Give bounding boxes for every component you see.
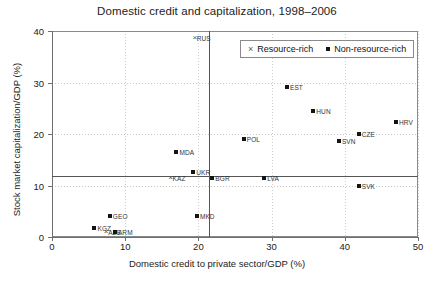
data-point: MDA — [174, 150, 178, 154]
y-tick-label: 40 — [22, 26, 44, 37]
legend-label-non-resource-rich: Non-resource-rich — [334, 44, 406, 54]
chart-title: Domestic credit and capitalization, 1998… — [0, 5, 434, 17]
chart-legend: × Resource-rich Non-resource-rich — [240, 40, 414, 58]
square-marker-icon — [191, 170, 195, 174]
data-point-label: MKD — [200, 213, 215, 220]
x-axis-label: Domestic credit to private sector/GDP (%… — [0, 258, 434, 269]
data-point-label: POL — [247, 136, 260, 143]
square-marker-icon — [394, 120, 398, 124]
data-point: UKR — [191, 170, 195, 174]
data-point: MKD — [195, 214, 199, 218]
square-marker-icon — [337, 139, 341, 143]
data-point: ×KAZ — [168, 175, 174, 181]
y-axis-line — [52, 31, 53, 237]
data-point-label: BGR — [215, 175, 229, 182]
y-tick-mark — [48, 186, 52, 187]
x-tick-label: 50 — [413, 241, 424, 252]
square-marker-icon — [326, 47, 330, 51]
square-marker-icon — [357, 132, 361, 136]
x-tick-label: 30 — [266, 241, 277, 252]
data-point-label: EST — [290, 83, 303, 90]
square-marker-icon — [195, 214, 199, 218]
y-tick-label: 0 — [22, 232, 44, 243]
data-point: ×RUS — [192, 35, 198, 41]
x-tick-label: 40 — [340, 241, 351, 252]
square-marker-icon — [242, 137, 246, 141]
y-tick-label: 30 — [22, 77, 44, 88]
y-tick-mark — [48, 134, 52, 135]
data-point-label: LVA — [267, 175, 279, 182]
x-tick-label: 0 — [49, 241, 54, 252]
square-marker-icon — [108, 214, 112, 218]
data-point-label: CZE — [362, 131, 375, 138]
y-tick-mark — [48, 31, 52, 32]
square-marker-icon — [357, 184, 361, 188]
x-axis-line — [52, 237, 418, 238]
data-point-label: RUS — [197, 35, 211, 42]
reference-line-vertical — [209, 31, 210, 237]
x-tick-label: 10 — [120, 241, 131, 252]
scatter-chart: Domestic credit and capitalization, 1998… — [0, 0, 434, 285]
y-axis-label: Stock market capitalization/GDP (%) — [11, 40, 22, 240]
data-point-label: KGZ — [97, 224, 111, 231]
data-point-label: ARM — [118, 228, 133, 235]
data-point: ARM — [113, 230, 117, 234]
data-point: CZE — [357, 132, 361, 136]
square-marker-icon — [262, 176, 266, 180]
data-point-label: HUN — [316, 107, 330, 114]
legend-label-resource-rich: Resource-rich — [257, 44, 313, 54]
data-point-label: KAZ — [173, 175, 186, 182]
y-tick-label: 10 — [22, 180, 44, 191]
data-point: HRV — [394, 120, 398, 124]
square-marker-icon — [311, 109, 315, 113]
square-marker-icon — [285, 85, 289, 89]
data-point: HUN — [311, 109, 315, 113]
data-point: KGZ — [92, 226, 96, 230]
data-point-label: HRV — [399, 118, 413, 125]
y-tick-label: 20 — [22, 129, 44, 140]
data-point: GEO — [108, 214, 112, 218]
data-point: EST — [285, 85, 289, 89]
data-point-label: MDA — [179, 149, 194, 156]
square-marker-icon — [210, 176, 214, 180]
data-point: SVN — [337, 139, 341, 143]
data-point: BGR — [210, 176, 214, 180]
legend-item-non-resource-rich: Non-resource-rich — [326, 44, 406, 54]
gridline-vertical — [418, 31, 419, 237]
data-point: POL — [242, 137, 246, 141]
reference-line-horizontal — [52, 176, 418, 177]
square-marker-icon — [174, 150, 178, 154]
data-point-label: SVN — [342, 138, 356, 145]
data-point-label: UKR — [196, 168, 210, 175]
data-point-label: GEO — [113, 213, 128, 220]
data-point: LVA — [262, 176, 266, 180]
data-point: SVK — [357, 184, 361, 188]
cross-marker-icon: × — [248, 45, 253, 54]
data-point-label: SVK — [362, 182, 375, 189]
x-tick-label: 20 — [193, 241, 204, 252]
y-tick-mark — [48, 83, 52, 84]
square-marker-icon — [113, 230, 117, 234]
square-marker-icon — [92, 226, 96, 230]
legend-item-resource-rich: × Resource-rich — [248, 44, 313, 54]
